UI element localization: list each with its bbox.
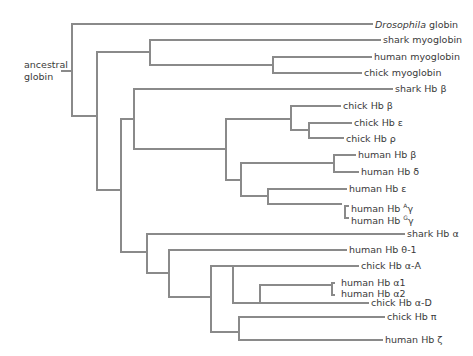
leaf-text: human Hb: [351, 215, 403, 226]
root-label-line2: globin: [24, 71, 68, 83]
root-label-line1: ancestral: [24, 59, 68, 71]
leaf-human-hb-epsilon: human Hb ε: [349, 183, 407, 194]
leaf-human-hb-beta: human Hb β: [358, 149, 416, 160]
leaf-chick-hb-rho: chick Hb ρ: [346, 133, 396, 144]
leaf-chick-hb-epsilon: chick Hb ε: [354, 117, 403, 128]
leaf-chick-hb-alpha-d: chick Hb α-D: [371, 297, 432, 308]
leaf-human-hb-zeta: human Hb ζ: [385, 334, 443, 345]
leaf-gene: globin: [426, 19, 458, 30]
leaf-drosophila: Drosophila globin: [375, 19, 458, 30]
leaf-species: Drosophila: [375, 19, 426, 30]
leaf-human-hb-g-gamma: human Hb Gγ: [351, 212, 414, 226]
leaf-chick-hb-beta: chick Hb β: [343, 100, 393, 111]
leaf-human-hb-theta1: human Hb θ-1: [349, 244, 417, 255]
root-label: ancestral globin: [24, 59, 68, 83]
leaf-shark-hb-beta: shark Hb β: [395, 83, 446, 94]
leaf-chick-myoglobin: chick myoglobin: [364, 67, 442, 78]
leaf-chick-hb-alpha-a: chick Hb α-A: [361, 260, 421, 271]
leaf-human-hb-alpha1: human Hb α1: [341, 277, 406, 288]
leaf-tail: γ: [408, 215, 414, 226]
leaf-shark-myoglobin: shark myoglobin: [383, 34, 462, 45]
leaf-human-hb-delta: human Hb δ: [361, 166, 419, 177]
leaf-human-myoglobin: human myoglobin: [374, 51, 460, 62]
leaf-shark-hb-alpha: shark Hb α: [407, 228, 459, 239]
leaf-chick-hb-pi: chick Hb π: [387, 311, 437, 322]
